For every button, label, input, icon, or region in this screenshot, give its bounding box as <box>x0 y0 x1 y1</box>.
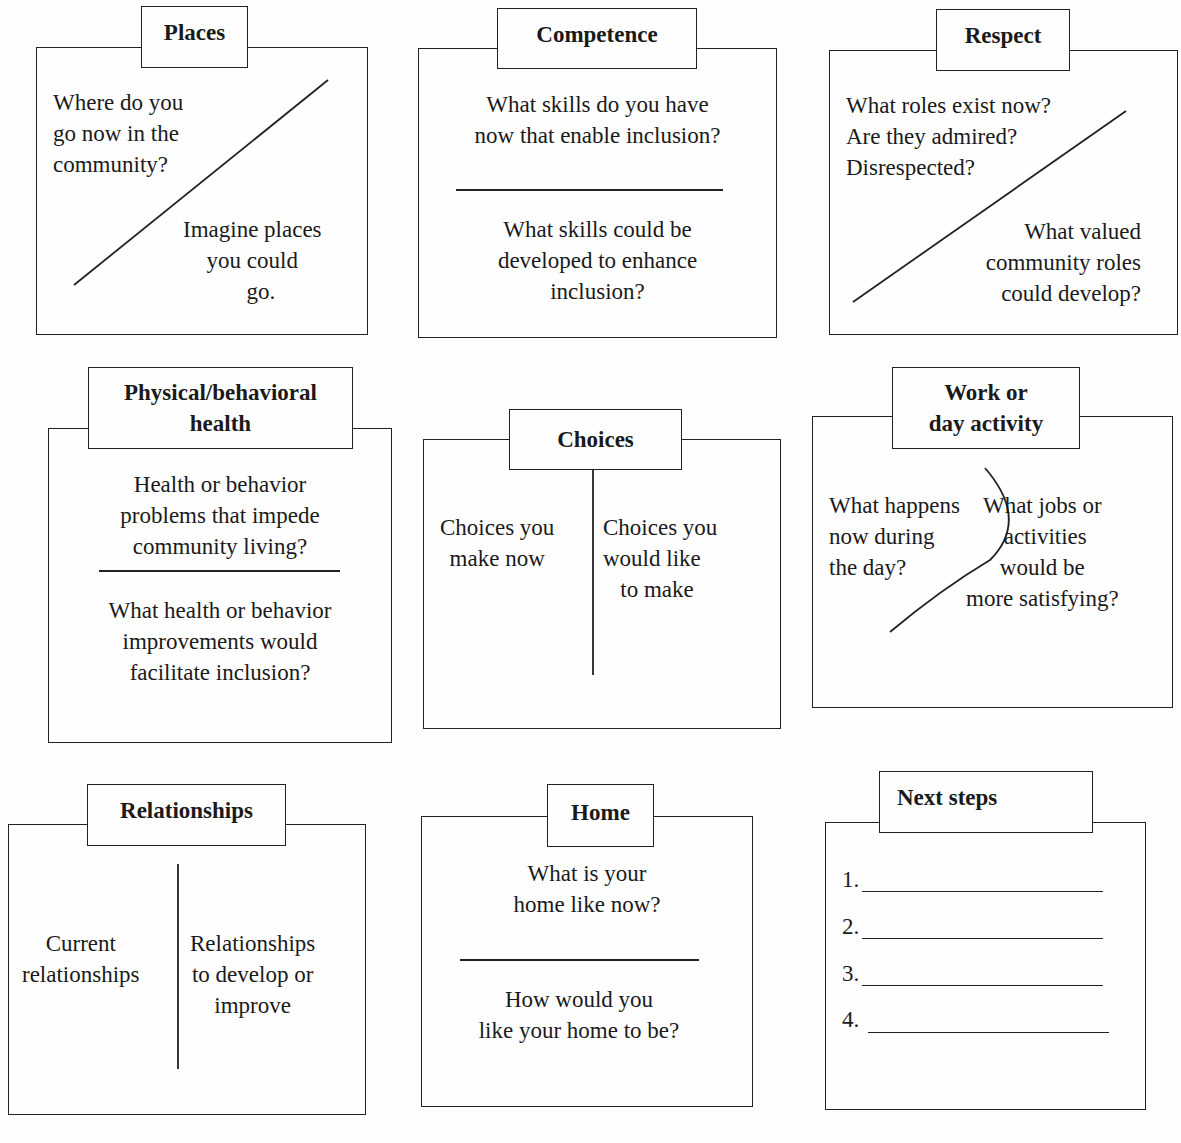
next-step-input-2[interactable] <box>862 938 1103 939</box>
home-current-question: What is your home like now? <box>421 858 753 920</box>
respect-title: Respect <box>936 9 1070 71</box>
next-step-number-3: 3. <box>842 960 859 988</box>
relationships-current: Current relationships <box>22 928 140 990</box>
choices-current: Choices you make now <box>440 512 554 574</box>
places-title: Places <box>141 6 248 68</box>
next-step-input-3[interactable] <box>862 985 1103 986</box>
places-future-question: Imagine places you could go. <box>183 214 322 307</box>
choices-future: Choices you would like to make <box>603 512 717 605</box>
health-title: Physical/behavioral health <box>88 367 353 449</box>
respect-future-question: What valued community roles could develo… <box>986 216 1141 309</box>
relationships-title: Relationships <box>87 784 286 846</box>
next-steps-title: Next steps <box>879 771 1093 833</box>
relationships-future: Relationships to develop or improve <box>190 928 315 1021</box>
respect-current-question: What roles exist now? Are they admired? … <box>846 90 1051 183</box>
home-title: Home <box>547 784 654 847</box>
choices-panel <box>423 439 781 729</box>
next-step-input-4[interactable] <box>868 1032 1109 1033</box>
next-step-number-2: 2. <box>842 913 859 941</box>
places-current-question: Where do you go now in the community? <box>53 87 183 180</box>
competence-current-question: What skills do you have now that enable … <box>418 89 777 151</box>
health-current-question: Health or behavior problems that impede … <box>48 469 392 562</box>
competence-title: Competence <box>497 8 697 69</box>
work-current-question: What happens now during the day? <box>829 490 960 583</box>
work-future-question: What jobs or activities would be more sa… <box>966 490 1119 614</box>
next-steps-panel <box>825 822 1146 1110</box>
next-step-input-1[interactable] <box>862 891 1103 892</box>
health-future-question: What health or behavior improvements wou… <box>48 595 392 688</box>
next-step-number-4: 4. <box>842 1006 859 1034</box>
work-title: Work or day activity <box>892 367 1080 449</box>
next-step-number-1: 1. <box>842 866 859 894</box>
choices-title: Choices <box>509 409 682 470</box>
home-future-question: How would you like your home to be? <box>413 984 745 1046</box>
competence-future-question: What skills could be developed to enhanc… <box>418 214 777 307</box>
